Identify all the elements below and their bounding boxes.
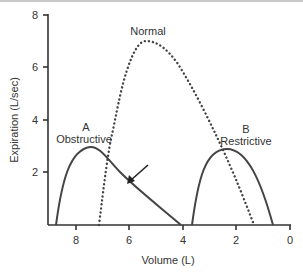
x-tick-label: 4	[180, 234, 186, 246]
x-axis-title: Volume (L)	[141, 254, 194, 266]
x-tick-label: 6	[126, 234, 132, 246]
x-tick-label: 0	[287, 234, 293, 246]
normal-label: Normal	[130, 25, 165, 37]
y-tick-label: 2	[32, 166, 38, 178]
restrictive-curve	[192, 149, 273, 225]
x-tick-label: 2	[233, 234, 239, 246]
obstructive-curve	[56, 147, 181, 225]
obstructive-label: Obstructive	[56, 133, 112, 145]
y-tick-label: 8	[32, 9, 38, 21]
restrictive-label: Restrictive	[220, 135, 271, 147]
y-tick-label: 6	[32, 61, 38, 73]
y-axis-title: Expiration (L/sec)	[8, 77, 20, 163]
a-label: A	[82, 121, 90, 133]
x-tick-label: 8	[73, 234, 79, 246]
flow-volume-chart: 8 6 4 2 8 6 4 2 0 Volume (L) Expiration …	[0, 0, 303, 273]
y-tick-label: 4	[32, 114, 38, 126]
arrow-icon	[127, 165, 148, 184]
b-label: B	[242, 123, 249, 135]
axes	[43, 14, 291, 230]
y-tick-labels: 8 6 4 2	[32, 9, 38, 178]
normal-curve	[99, 41, 254, 225]
x-tick-labels: 8 6 4 2 0	[73, 234, 293, 246]
curve-labels: Normal A Obstructive B Restrictive	[56, 25, 271, 147]
